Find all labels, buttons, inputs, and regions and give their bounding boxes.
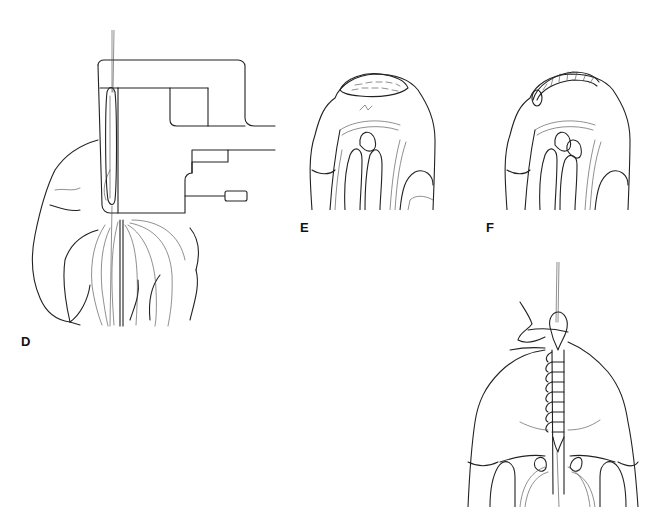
panel-f-illustration	[495, 60, 635, 210]
panel-d-illustration	[10, 30, 280, 330]
figure-caption-truncated	[22, 499, 342, 507]
panel-label-d: D	[21, 334, 30, 349]
panel-label-f: F	[486, 220, 494, 235]
panel-e-illustration	[300, 60, 440, 210]
panel-label-e: E	[300, 220, 309, 235]
panel-closure-illustration	[460, 262, 655, 507]
